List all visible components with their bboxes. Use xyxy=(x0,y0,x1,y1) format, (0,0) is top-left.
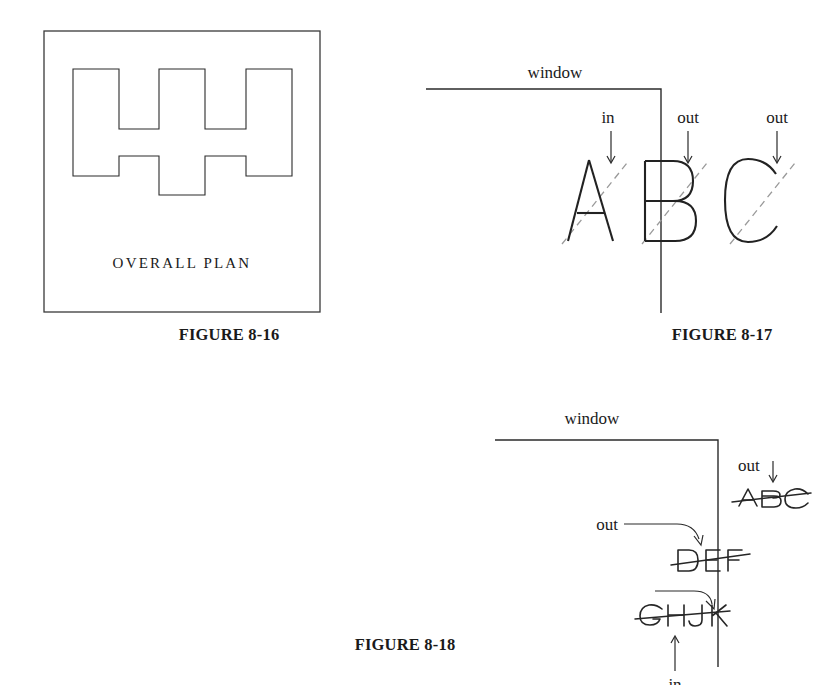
annotation-in-GHJK xyxy=(655,591,715,609)
window-boundary-line xyxy=(426,89,661,313)
dashed-baseline-B xyxy=(642,163,707,244)
annotation-label-in-ghjk: in xyxy=(668,675,682,685)
letter-C xyxy=(725,159,777,242)
figure-8-16: OVERALL PLAN FIGURE 8-16 xyxy=(40,25,335,365)
annotation-label-out-abc: out xyxy=(738,456,760,475)
annotation-label-in: in xyxy=(601,108,615,127)
annotation-out-B: out xyxy=(677,108,699,163)
figure-8-17-caption: FIGURE 8-17 xyxy=(672,325,773,344)
annotation-out-ABC: out xyxy=(738,456,777,482)
annotation-in-A: in xyxy=(601,108,615,163)
dashed-baseline-C xyxy=(730,163,795,244)
letter-B xyxy=(645,161,696,241)
string-GHJK xyxy=(635,605,730,626)
annotation-out-DEF: out xyxy=(596,515,703,545)
annotation-label-out-def: out xyxy=(596,515,618,534)
figure-page: OVERALL PLAN FIGURE 8-16 window in out o… xyxy=(0,0,820,685)
string-ABC xyxy=(732,489,811,508)
window-boundary-line xyxy=(495,440,718,667)
annotation-out-C: out xyxy=(766,108,788,163)
overall-plan-label: OVERALL PLAN xyxy=(113,255,252,271)
arrow-shaft-curved xyxy=(624,524,699,539)
figure-8-18: window out out xyxy=(330,405,820,680)
figure-8-17: window in out out xyxy=(425,55,820,355)
strikethrough-GHJK xyxy=(635,611,730,619)
annotation-label-out-c: out xyxy=(766,108,788,127)
overall-plan-polygon xyxy=(73,69,292,195)
figure-8-17-window-label: window xyxy=(528,63,584,82)
letter-A xyxy=(568,160,613,241)
figure-8-18-caption: FIGURE 8-18 xyxy=(355,635,456,654)
figure-8-18-window-label: window xyxy=(565,409,621,428)
arrow-shaft-curved xyxy=(655,591,712,604)
annotation-in-arrow: in xyxy=(668,636,682,685)
figure-8-16-caption: FIGURE 8-16 xyxy=(179,325,280,344)
annotation-label-out-b: out xyxy=(677,108,699,127)
string-DEF xyxy=(671,550,750,571)
